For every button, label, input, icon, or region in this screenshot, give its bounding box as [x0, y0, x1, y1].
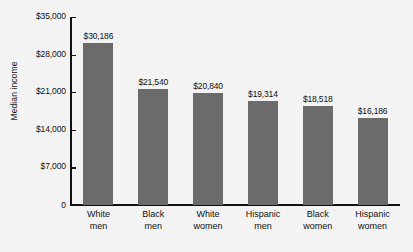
bar-group-2[interactable]: $20,840	[193, 17, 223, 205]
plot-area: $30,186$21,540$20,840$19,314$18,518$16,1…	[71, 17, 400, 205]
bar-value-label: $30,186	[84, 31, 114, 41]
y-tick-label: $21,000	[36, 86, 66, 96]
bar-value-label: $21,540	[138, 77, 168, 87]
category-label-line1: White	[197, 209, 220, 219]
bar-value-label: $18,518	[303, 94, 333, 104]
category-label-0: Whitemen	[71, 209, 126, 232]
bar[interactable]	[83, 43, 113, 205]
category-label-line2: women	[345, 221, 400, 233]
category-label-line1: Black	[307, 209, 329, 219]
category-label-line1: Hispanic	[246, 209, 281, 219]
bar-group-0[interactable]: $30,186	[83, 17, 113, 205]
bar[interactable]	[138, 89, 168, 205]
y-tick-label: $28,000	[36, 49, 66, 59]
category-label-line2: women	[290, 221, 345, 233]
category-label-line1: Hispanic	[355, 209, 390, 219]
category-label-2: Whitewomen	[181, 209, 236, 232]
category-label-5: Hispanicwomen	[345, 209, 400, 232]
category-label-line2: women	[181, 221, 236, 233]
category-label-4: Blackwomen	[290, 209, 345, 232]
category-label-line2: men	[71, 221, 126, 233]
category-label-1: Blackmen	[126, 209, 181, 232]
y-tick-label: 0	[61, 200, 66, 210]
bar-value-label: $20,840	[193, 81, 223, 91]
bar-group-3[interactable]: $19,314	[248, 17, 278, 205]
category-label-line2: men	[126, 221, 181, 233]
bar-group-1[interactable]: $21,540	[138, 17, 168, 205]
bar-group-4[interactable]: $18,518	[303, 17, 333, 205]
y-axis-title: Median income	[9, 51, 19, 131]
bar[interactable]	[193, 93, 223, 205]
bar[interactable]	[248, 101, 278, 205]
bar-value-label: $19,314	[248, 89, 278, 99]
category-label-line1: Black	[142, 209, 164, 219]
y-tick-label: $14,000	[36, 124, 66, 134]
y-tick-label: $7,000	[41, 161, 66, 171]
bar[interactable]	[358, 118, 388, 205]
bar-group-5[interactable]: $16,186	[358, 17, 388, 205]
category-label-line2: men	[236, 221, 291, 233]
chart-screenshot: Median income $35,000$28,000$21,000$14,0…	[0, 0, 413, 252]
y-tick-label: $35,000	[36, 11, 66, 21]
bar-chart: Median income $35,000$28,000$21,000$14,0…	[0, 0, 413, 252]
bar[interactable]	[303, 106, 333, 205]
bar-value-label: $16,186	[358, 106, 388, 116]
category-label-3: Hispanicmen	[236, 209, 291, 232]
category-label-line1: White	[87, 209, 110, 219]
